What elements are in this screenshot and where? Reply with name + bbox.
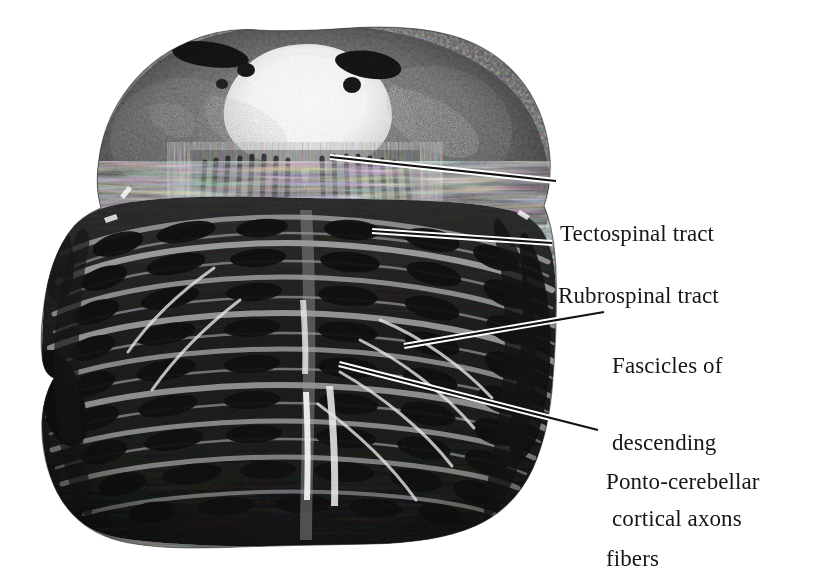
- label-ponto-cerebellar-fibers: Ponto-cerebellar fibers: [606, 418, 760, 570]
- label-line: fibers: [606, 546, 760, 570]
- label-line: Ponto-cerebellar: [606, 469, 760, 495]
- histology-specimen-image: [0, 0, 620, 570]
- label-line: Fascicles of: [612, 353, 742, 379]
- anatomy-figure: Tectospinal tract Rubrospinal tract Fasc…: [0, 0, 834, 570]
- specimen-svg: [0, 0, 620, 570]
